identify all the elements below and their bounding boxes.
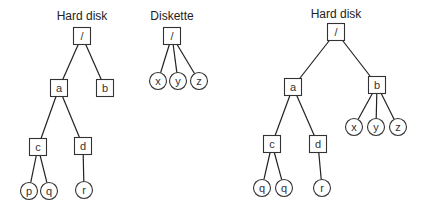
file-node-x: x <box>150 73 167 90</box>
directory-node-b: b <box>369 77 386 94</box>
tree-edge <box>358 94 372 120</box>
tree-edge <box>264 153 270 180</box>
tree-label-0: Hard disk <box>57 9 109 23</box>
node-label: r <box>82 184 86 196</box>
node-label: d <box>315 138 321 150</box>
tree-edge <box>41 97 56 139</box>
file-node-q: q <box>41 183 58 200</box>
tree-edge <box>376 94 377 119</box>
node-label: y <box>175 75 181 87</box>
tree-edge <box>319 153 321 180</box>
node-label: d <box>80 140 86 152</box>
file-node-q: q <box>254 180 271 197</box>
node-label: x <box>155 75 161 87</box>
tree-edge <box>343 41 371 77</box>
node-label: a <box>290 81 297 93</box>
node-label: z <box>196 75 202 87</box>
file-node-q: q <box>276 180 293 197</box>
node-label: b <box>374 79 380 91</box>
edges-layer <box>31 41 394 183</box>
nodes-layer: /abcdpqr/xyz/abxyzcdqqr <box>21 24 407 200</box>
node-label: q <box>281 182 287 194</box>
labels-layer: Hard diskDisketteHard disk <box>57 7 363 23</box>
node-label: p <box>26 185 32 197</box>
node-label: b <box>102 82 108 94</box>
node-label: x <box>351 121 357 133</box>
file-node-r: r <box>314 180 331 197</box>
tree-edge <box>177 45 195 74</box>
node-label: q <box>259 182 265 194</box>
directory-node-root: / <box>74 28 91 45</box>
directory-node-root: / <box>164 28 181 45</box>
tree-edge <box>297 96 315 136</box>
tree-edge <box>274 153 281 180</box>
tree-edge <box>275 96 290 136</box>
tree-edge <box>161 45 170 73</box>
directory-node-a: a <box>285 79 302 96</box>
tree-edge <box>63 97 80 138</box>
file-node-y: y <box>170 73 187 90</box>
tree-edge <box>63 45 78 80</box>
tree-label-1: Diskette <box>150 9 194 23</box>
file-node-z: z <box>191 73 208 90</box>
node-label: c <box>269 138 275 150</box>
node-label: r <box>320 182 324 194</box>
directory-node-d: d <box>75 138 92 155</box>
file-node-p: p <box>21 183 38 200</box>
tree-edge <box>173 45 177 73</box>
directory-node-c: c <box>264 136 281 153</box>
node-label: z <box>395 121 401 133</box>
directory-node-root: / <box>328 24 345 41</box>
node-label: a <box>56 82 63 94</box>
node-label: c <box>35 141 41 153</box>
node-label: y <box>373 121 379 133</box>
file-node-r: r <box>76 182 93 199</box>
tree-edge <box>83 155 84 182</box>
directory-node-d: d <box>310 136 327 153</box>
file-tree-diagram: /abcdpqr/xyz/abxyzcdqqr Hard diskDiskett… <box>0 0 424 212</box>
directory-node-c: c <box>30 139 47 156</box>
tree-edge <box>31 156 37 183</box>
node-label: q <box>46 185 52 197</box>
tree-edge <box>40 156 47 183</box>
tree-edge <box>300 41 330 79</box>
tree-label-2: Hard disk <box>311 7 363 21</box>
file-node-x: x <box>346 119 363 136</box>
tree-edge <box>86 45 101 80</box>
file-node-z: z <box>390 119 407 136</box>
file-node-y: y <box>368 119 385 136</box>
directory-node-b: b <box>97 80 114 97</box>
tree-edge <box>381 94 394 120</box>
directory-node-a: a <box>51 80 68 97</box>
